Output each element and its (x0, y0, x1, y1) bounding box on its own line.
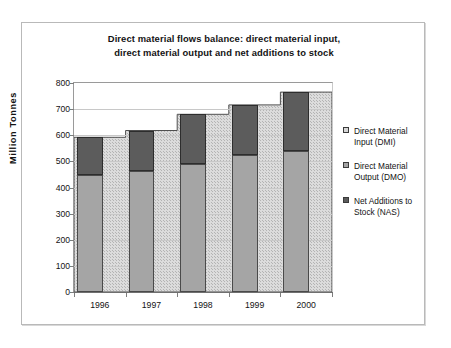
y-tick-label: 800 (30, 79, 70, 88)
bar-segment-nas[interactable] (283, 92, 309, 151)
bar-segment-dmo[interactable] (77, 175, 103, 292)
y-tick-mark (70, 83, 74, 84)
x-tick-mark (332, 293, 333, 297)
y-tick-mark (70, 161, 74, 162)
bar-segment-dmo[interactable] (180, 164, 206, 292)
chart-title-line-1: Direct material flows balance: direct ma… (22, 32, 426, 46)
x-tick-mark (177, 293, 178, 297)
y-tick-label: 500 (30, 157, 70, 166)
legend-swatch-nas-icon (343, 197, 349, 203)
x-tick-label-2000: 2000 (283, 300, 329, 310)
x-tick-mark (229, 293, 230, 297)
bar-segment-dmo[interactable] (129, 171, 155, 292)
x-tick-label-1997: 1997 (128, 300, 174, 310)
bar-segment-nas[interactable] (180, 114, 206, 164)
bar-segment-nas[interactable] (77, 137, 103, 175)
y-tick-mark (70, 135, 74, 136)
x-tick-mark (280, 293, 281, 297)
y-tick-label: 700 (30, 105, 70, 114)
bar-group-1999[interactable] (232, 83, 258, 292)
legend-label-line-2: Stock (NAS) (354, 207, 423, 218)
bar-segment-nas[interactable] (129, 131, 155, 171)
legend-swatch-dmi-icon (343, 127, 349, 133)
bar-group-1998[interactable] (180, 83, 206, 292)
bar-group-1997[interactable] (129, 83, 155, 292)
x-tick-mark (74, 293, 75, 297)
y-axis-title: Million Tonnes (6, 23, 20, 232)
plot-area: 8007006005004003002001000 19961997199819… (73, 82, 333, 293)
bar-group-1996[interactable] (77, 83, 103, 292)
y-tick-label: 400 (30, 184, 70, 193)
legend-entry-dmo[interactable]: Direct MaterialOutput (DMO) (343, 161, 423, 182)
legend-label-line-2: Input (DMI) (354, 137, 423, 148)
y-tick-mark (70, 214, 74, 215)
y-tick-mark (70, 188, 74, 189)
x-axis-line (74, 292, 333, 293)
y-tick-label: 100 (30, 262, 70, 271)
legend-label-line-2: Output (DMO) (354, 172, 423, 183)
bar-segment-dmo[interactable] (283, 151, 309, 292)
chart-legend: Direct MaterialInput (DMI)Direct Materia… (343, 126, 423, 231)
x-tick-label-1998: 1998 (180, 300, 226, 310)
y-tick-mark (70, 240, 74, 241)
bar-segment-dmo[interactable] (232, 155, 258, 292)
legend-label-line-1: Direct Material (354, 126, 423, 137)
legend-entry-nas[interactable]: Net Additions toStock (NAS) (343, 196, 423, 217)
y-axis-title-label: Million Tonnes (8, 91, 18, 163)
x-tick-label-1996: 1996 (77, 300, 123, 310)
chart-title-line-2: direct material output and net additions… (22, 46, 426, 60)
bar-segment-nas[interactable] (232, 105, 258, 155)
y-tick-label: 600 (30, 131, 70, 140)
chart-title: Direct material flows balance: direct ma… (22, 32, 426, 59)
y-tick-label: 200 (30, 236, 70, 245)
legend-entry-dmi[interactable]: Direct MaterialInput (DMI) (343, 126, 423, 147)
x-tick-label-1999: 1999 (232, 300, 278, 310)
chart-card: Direct material flows balance: direct ma… (21, 22, 425, 325)
y-tick-mark (70, 266, 74, 267)
legend-swatch-dmo-icon (343, 162, 349, 168)
y-tick-mark (70, 109, 74, 110)
legend-label-line-1: Net Additions to (354, 196, 423, 207)
bar-group-2000[interactable] (283, 83, 309, 292)
x-tick-mark (126, 293, 127, 297)
y-tick-label: 0 (30, 288, 70, 297)
y-tick-label: 300 (30, 210, 70, 219)
legend-label-line-1: Direct Material (354, 161, 423, 172)
